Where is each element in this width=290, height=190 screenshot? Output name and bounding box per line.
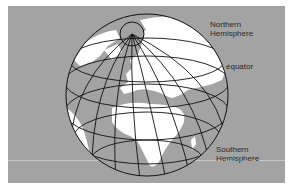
label-northern-hemisphere: Northern Hemisphere [210,20,253,38]
southern-line-1: Southern [216,145,259,154]
label-southern-hemisphere: Southern Hemisphere [216,145,259,163]
southern-line-2: Hemisphere [216,154,259,163]
northern-line-1: Northern [210,20,253,29]
northern-line-2: Hemisphere [210,29,253,38]
label-equator: equator [226,62,253,71]
